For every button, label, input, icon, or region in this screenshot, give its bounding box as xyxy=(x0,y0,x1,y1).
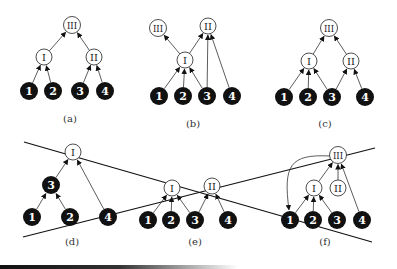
svg-text:1: 1 xyxy=(280,91,288,104)
svg-text:2: 2 xyxy=(49,85,57,98)
edge-a-2-I xyxy=(46,66,50,83)
svg-text:1: 1 xyxy=(25,85,33,98)
svg-text:II: II xyxy=(90,52,98,63)
node-d-3: 3 xyxy=(42,176,60,194)
node-b-4: 4 xyxy=(223,87,241,105)
node-a-I: I xyxy=(36,49,52,65)
svg-text:4: 4 xyxy=(224,214,232,227)
svg-text:III: III xyxy=(324,24,334,34)
node-e-I: I xyxy=(164,180,180,196)
svg-text:II: II xyxy=(204,21,212,32)
svg-text:I: I xyxy=(42,52,46,63)
edge-b-3-II xyxy=(207,35,208,87)
edge-d-4-I xyxy=(77,160,103,209)
node-c-2: 2 xyxy=(299,88,317,106)
edge-c-1-I xyxy=(289,68,304,89)
edge-e-3-I xyxy=(177,195,189,212)
edge-c-I-III xyxy=(313,36,324,54)
node-b-III: III xyxy=(150,20,167,37)
node-e-2: 2 xyxy=(162,211,180,229)
edge-d-2-3 xyxy=(56,194,65,210)
svg-text:III: III xyxy=(67,21,77,31)
edge-a-II-III xyxy=(77,33,89,51)
node-e-1: 1 xyxy=(139,211,157,229)
edge-d-1-3 xyxy=(37,194,46,210)
edge-b-4-II xyxy=(211,35,229,88)
edge-a-4-II xyxy=(97,66,102,83)
node-a-II: II xyxy=(86,49,102,65)
bottom-border-bar xyxy=(0,265,397,269)
node-f-1: 1 xyxy=(281,211,299,229)
edge-c-3-II xyxy=(336,69,347,89)
caption-f: (f) xyxy=(319,236,331,247)
edge-c-4-II xyxy=(354,69,361,88)
node-c-1: 1 xyxy=(275,88,293,106)
svg-text:I: I xyxy=(307,56,311,67)
svg-text:3: 3 xyxy=(47,179,55,192)
node-e-II: II xyxy=(204,178,220,194)
svg-text:II: II xyxy=(334,183,342,194)
svg-text:3: 3 xyxy=(76,85,84,98)
svg-text:1: 1 xyxy=(155,90,163,103)
svg-text:3: 3 xyxy=(333,214,341,227)
edge-b-3-I xyxy=(190,68,203,89)
edge-a-3-II xyxy=(83,65,90,82)
svg-text:I: I xyxy=(183,55,187,66)
edge-f-1-I xyxy=(295,195,308,213)
svg-text:1: 1 xyxy=(28,211,36,224)
svg-text:3: 3 xyxy=(203,90,211,103)
caption-c: (c) xyxy=(318,118,332,129)
svg-text:4: 4 xyxy=(358,214,366,227)
node-d-I: I xyxy=(65,144,81,160)
node-c-4: 4 xyxy=(356,88,374,106)
edge-b-2-I xyxy=(183,69,184,87)
edge-a-1-I xyxy=(33,65,41,83)
caption-a: (a) xyxy=(63,113,77,124)
node-e-4: 4 xyxy=(219,211,237,229)
edge-f-I-III xyxy=(319,163,333,182)
node-b-2: 2 xyxy=(174,87,192,105)
node-f-4: 4 xyxy=(353,211,371,229)
edge-d-3-I xyxy=(56,159,68,177)
node-b-3: 3 xyxy=(198,87,216,105)
node-b-II: II xyxy=(200,18,216,34)
node-c-III: III xyxy=(321,20,338,37)
svg-text:3: 3 xyxy=(191,214,199,227)
svg-text:2: 2 xyxy=(179,90,187,103)
svg-text:I: I xyxy=(170,183,174,194)
svg-text:III: III xyxy=(153,24,163,34)
svg-text:4: 4 xyxy=(101,85,109,98)
edge-c-2-I xyxy=(308,70,309,88)
graph-figure: 1234IIIIII1234IIIIII1234IIIIII1234I1234I… xyxy=(0,0,397,269)
edge-b-1-I xyxy=(164,67,179,88)
edge-c-3-I xyxy=(314,69,327,90)
node-f-II: II xyxy=(330,180,346,196)
svg-text:2: 2 xyxy=(304,91,312,104)
svg-text:2: 2 xyxy=(167,214,175,227)
node-a-3: 3 xyxy=(71,82,89,100)
node-a-4: 4 xyxy=(96,82,114,100)
svg-text:II: II xyxy=(347,56,355,67)
edge-f-3-I xyxy=(319,195,331,212)
edge-a-I-III xyxy=(49,32,65,51)
node-f-3: 3 xyxy=(328,211,346,229)
node-b-1: 1 xyxy=(150,87,168,105)
svg-text:4: 4 xyxy=(228,90,236,103)
node-b-I: I xyxy=(177,52,193,68)
node-a-1: 1 xyxy=(20,82,38,100)
edge-e-4-II xyxy=(216,194,224,212)
node-d-1: 1 xyxy=(23,208,41,226)
node-c-3: 3 xyxy=(323,88,341,106)
svg-text:1: 1 xyxy=(144,214,152,227)
svg-text:4: 4 xyxy=(104,211,112,224)
node-a-2: 2 xyxy=(44,82,62,100)
svg-text:I: I xyxy=(312,183,316,194)
node-f-III: III xyxy=(330,147,347,164)
svg-text:III: III xyxy=(333,151,343,161)
node-d-4: 4 xyxy=(99,208,117,226)
node-f-I: I xyxy=(306,180,322,196)
caption-d: (d) xyxy=(65,236,79,247)
edge-b-I-II xyxy=(189,33,202,53)
svg-text:3: 3 xyxy=(328,91,336,104)
node-c-II: II xyxy=(343,53,359,69)
